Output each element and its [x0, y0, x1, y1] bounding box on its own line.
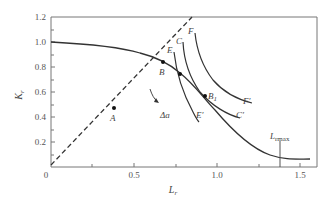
svg-text:1.2: 1.2	[35, 12, 46, 22]
loading-line	[51, 17, 192, 165]
point-b	[161, 60, 165, 64]
point-a	[112, 106, 116, 110]
y-tick-labels: 0.2 0.4 0.6 0.8 1.0 1.2	[35, 12, 47, 147]
svg-text:1.0: 1.0	[35, 37, 47, 47]
svg-text:1.0: 1.0	[211, 170, 223, 180]
label-e-prime: E′	[195, 110, 204, 120]
svg-text:0.4: 0.4	[35, 112, 47, 122]
y-ticks	[51, 30, 55, 155]
label-c: C	[176, 36, 183, 46]
label-f-prime: F′	[242, 96, 251, 106]
label-a: A	[109, 113, 116, 123]
failure-assessment-curve	[51, 42, 310, 159]
label-delta-a: Δa	[159, 110, 170, 120]
svg-text:0.5: 0.5	[128, 170, 140, 180]
svg-text:0.6: 0.6	[35, 87, 47, 97]
svg-text:0.2: 0.2	[35, 137, 46, 147]
label-c-prime: C′	[236, 110, 245, 120]
label-f: F	[187, 26, 194, 36]
point-intersection	[178, 72, 182, 76]
label-b: B	[159, 67, 165, 77]
point-b1	[203, 94, 207, 98]
curve-f	[195, 33, 252, 103]
x-tick-labels: 0 0.5 1.0 1.5	[44, 170, 306, 180]
y-axis-title: Kr	[13, 90, 26, 101]
svg-text:1.5: 1.5	[294, 170, 306, 180]
label-e: E	[166, 45, 173, 55]
x-ticks	[92, 163, 300, 167]
x-axis-title: Lr	[168, 184, 178, 197]
svg-text:0: 0	[44, 170, 49, 180]
chart: 0.2 0.4 0.6 0.8 1.0 1.2 0 0.5 1.0 1.5 Lr…	[0, 0, 330, 203]
svg-text:0.8: 0.8	[35, 62, 47, 72]
label-lrmax: Lrmax	[269, 131, 290, 143]
